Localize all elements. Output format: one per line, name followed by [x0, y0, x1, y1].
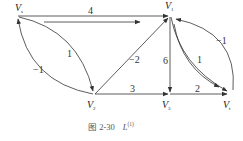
node-vt: Vt	[223, 99, 231, 111]
weight-v2-vs: −1	[33, 64, 44, 75]
node-v3: V3	[162, 99, 171, 111]
node-vs: Vs	[15, 2, 23, 14]
network-diagram: 4 1 −1 −2 3 6 2 1 −1 Vs V1 V2 V3 Vt 图 2-…	[0, 0, 243, 141]
edge-v2-vs	[18, 19, 93, 94]
weight-vt-v1: −1	[216, 35, 227, 46]
node-v1: V1	[165, 0, 174, 12]
figure-caption: 图 2-30L(1)	[88, 121, 134, 132]
weight-v1-vt: 1	[197, 54, 202, 65]
node-v2: V2	[87, 99, 96, 111]
weight-v2-v3: 3	[130, 83, 135, 94]
weight-v1-v3: 6	[163, 55, 168, 66]
weight-vs-v1: 4	[88, 5, 93, 16]
weight-v3-vt: 2	[195, 83, 200, 94]
weight-vs-v2: 1	[67, 48, 72, 59]
weight-v2-v1: −2	[129, 54, 140, 65]
